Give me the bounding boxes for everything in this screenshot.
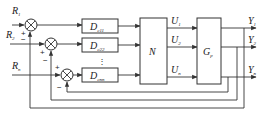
summing-junction-3 [61,69,73,81]
summing-junction-2 [45,38,57,50]
svg-text:N: N [148,46,157,57]
decoupler-block-n: N [140,18,167,84]
sum2-minus-sign: − [43,56,48,65]
controller-block-dcnn: Dcnn [82,68,118,82]
u2-label: U2 [171,34,181,46]
input-label-r1: R1 [11,5,21,17]
controller-block-dc11: Dc11 [82,19,118,33]
svg-text:Un: Un [171,64,181,76]
svg-text:Y1: Y1 [248,15,256,27]
input-label-rn: Rn [11,60,21,72]
y2-label: Y2 [248,34,257,46]
sum3-minus-sign: − [57,83,62,92]
svg-text:R2: R2 [5,29,15,41]
controller-block-dc22: Dc22 [82,38,118,52]
svg-text:U2: U2 [171,34,181,46]
svg-text:R1: R1 [11,5,21,17]
sum3-plus-sign: + [55,63,60,72]
y1-label: Y1 [248,15,256,27]
block-diagram: R1 R2 Rn + − + − + − Dc11 Dc22 ⋮ [0,0,265,117]
sum1-minus-sign: − [21,35,26,44]
yn-label: Yn [248,64,257,76]
ellipsis: ⋮ [98,57,106,66]
svg-text:Rn: Rn [11,60,21,72]
svg-text:Y2: Y2 [248,34,257,46]
summing-junction-1 [25,19,37,31]
plant-block-gp: Gp [197,18,221,84]
u1-label: U1 [171,15,181,27]
un-label: Un [171,64,181,76]
svg-text:Yn: Yn [248,64,257,76]
input-label-r2: R2 [5,29,15,41]
svg-text:U1: U1 [171,15,181,27]
